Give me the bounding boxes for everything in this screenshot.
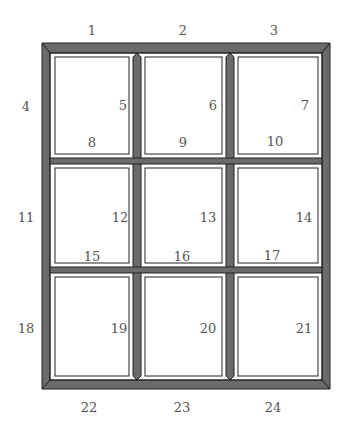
label-7: 7 [301,98,309,113]
label-1: 1 [88,23,96,38]
label-6: 6 [209,98,217,113]
label-16: 16 [174,249,191,264]
label-10: 10 [267,134,284,149]
label-17: 17 [264,248,281,263]
label-13: 13 [200,210,217,225]
label-18: 18 [18,321,35,336]
label-20: 20 [200,321,217,336]
label-19: 19 [111,321,128,336]
label-23: 23 [174,400,191,415]
label-5: 5 [119,98,127,113]
label-4: 4 [22,99,30,114]
label-11: 11 [18,210,35,225]
label-2: 2 [179,23,187,38]
label-14: 14 [296,210,313,225]
label-22: 22 [81,400,98,415]
label-12: 12 [112,210,129,225]
label-21: 21 [296,321,313,336]
label-9: 9 [179,135,187,150]
label-8: 8 [88,135,96,150]
label-24: 24 [265,400,282,415]
window-frame-diagram [0,0,342,430]
label-15: 15 [84,249,101,264]
label-3: 3 [270,23,278,38]
